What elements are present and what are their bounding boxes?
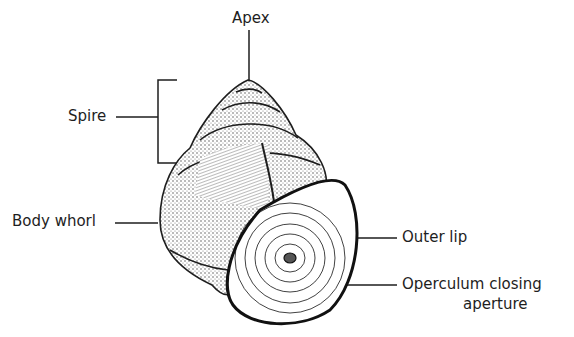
- body-whorl-label: Body whorl: [12, 213, 96, 230]
- spire-label: Spire: [68, 108, 106, 125]
- spire-bracket: [158, 80, 177, 163]
- operculum-label-line2: aperture: [463, 296, 528, 313]
- apex-label: Apex: [232, 10, 270, 27]
- outer-lip-label: Outer lip: [402, 229, 467, 246]
- operculum-label-line1: Operculum closing: [402, 276, 542, 293]
